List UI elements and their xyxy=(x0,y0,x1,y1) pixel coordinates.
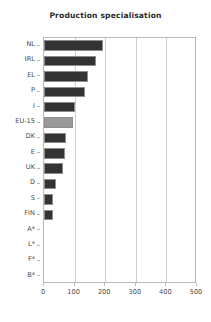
bar-nl[interactable] xyxy=(44,40,103,51)
y-tick-mark xyxy=(37,91,40,92)
bar-el[interactable] xyxy=(44,71,88,82)
bar-row xyxy=(44,238,195,253)
bar-dk[interactable] xyxy=(44,133,66,144)
plot-area xyxy=(43,37,196,283)
x-tick-mark-200 xyxy=(104,283,105,286)
y-tick-label-f-: F* xyxy=(28,252,35,267)
bar-irl[interactable] xyxy=(44,56,96,67)
bar-d[interactable] xyxy=(44,179,56,190)
y-tick-mark xyxy=(37,260,40,261)
bar-row xyxy=(44,146,195,161)
y-tick-mark xyxy=(37,198,40,199)
y-tick-mark xyxy=(37,45,40,46)
y-tick-mark xyxy=(37,137,40,138)
bar-eu-15[interactable] xyxy=(44,117,73,128)
chart-figure: Production specialisation NLIRLELPIEU-15… xyxy=(0,0,211,322)
bar-s[interactable] xyxy=(44,194,53,205)
y-tick-label-d: D xyxy=(30,175,35,190)
y-tick-mark xyxy=(37,183,40,184)
bar-row xyxy=(44,115,195,130)
x-tick-mark-100 xyxy=(74,283,75,286)
y-tick-label-p: P xyxy=(31,83,35,98)
x-tick-label-400: 400 xyxy=(159,288,172,296)
y-tick-label-dk: DK xyxy=(26,129,35,144)
y-tick-label-uk: UK xyxy=(26,160,35,175)
bar-series xyxy=(44,38,195,282)
y-tick-label-s: S xyxy=(31,191,35,206)
bar-p[interactable] xyxy=(44,87,85,98)
y-tick-label-el: EL xyxy=(27,68,35,83)
y-tick-mark xyxy=(37,75,40,76)
y-tick-label-i: I xyxy=(33,99,35,114)
bar-row xyxy=(44,84,195,99)
bar-row xyxy=(44,130,195,145)
x-axis: 0100200300400500 xyxy=(43,283,196,303)
y-tick-mark xyxy=(37,106,40,107)
bar-row xyxy=(44,176,195,191)
bar-e[interactable] xyxy=(44,148,65,159)
y-tick-label-l-: L* xyxy=(28,237,35,252)
bar-fin[interactable] xyxy=(44,210,53,221)
y-tick-label-fin: FIN xyxy=(24,206,35,221)
bar-row xyxy=(44,207,195,222)
x-tick-mark-400 xyxy=(165,283,166,286)
y-axis-labels: NLIRLELPIEU-15DKEUKDSFINA*L*F*B* xyxy=(0,37,40,283)
x-tick-label-300: 300 xyxy=(129,288,142,296)
y-tick-label-a-: A* xyxy=(27,222,35,237)
bar-uk[interactable] xyxy=(44,163,63,174)
y-tick-label-irl: IRL xyxy=(25,52,35,67)
bar-row xyxy=(44,38,195,53)
x-tick-label-500: 500 xyxy=(190,288,203,296)
y-tick-label-b-: B* xyxy=(27,268,35,283)
y-tick-mark xyxy=(37,122,40,123)
bar-row xyxy=(44,69,195,84)
y-tick-label-nl: NL xyxy=(26,37,35,52)
x-tick-mark-300 xyxy=(135,283,136,286)
y-tick-mark xyxy=(37,60,40,61)
footer-caption xyxy=(6,314,206,322)
bar-row xyxy=(44,253,195,268)
x-tick-label-200: 200 xyxy=(98,288,111,296)
y-tick-mark xyxy=(37,245,40,246)
y-tick-label-e: E xyxy=(31,145,35,160)
bar-row xyxy=(44,223,195,238)
bar-row xyxy=(44,269,195,283)
bar-row xyxy=(44,100,195,115)
y-tick-mark xyxy=(37,168,40,169)
x-tick-mark-500 xyxy=(196,283,197,286)
chart-title: Production specialisation xyxy=(0,11,211,20)
x-tick-mark-0 xyxy=(43,283,44,286)
bar-row xyxy=(44,161,195,176)
bar-row xyxy=(44,53,195,68)
bar-i[interactable] xyxy=(44,102,75,113)
y-tick-mark xyxy=(37,152,40,153)
y-tick-mark xyxy=(37,275,40,276)
y-tick-mark xyxy=(37,229,40,230)
y-tick-mark xyxy=(37,214,40,215)
bar-row xyxy=(44,192,195,207)
x-tick-label-100: 100 xyxy=(67,288,80,296)
y-tick-label-eu-15: EU-15 xyxy=(15,114,35,129)
x-tick-label-0: 0 xyxy=(41,288,45,296)
